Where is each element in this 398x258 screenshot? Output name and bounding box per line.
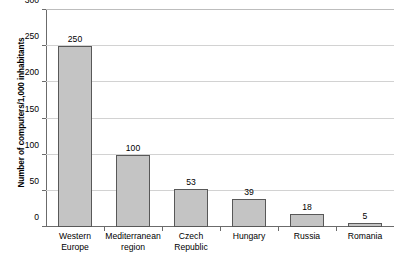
bar[interactable] bbox=[58, 46, 92, 227]
x-axis-label: Russia bbox=[278, 231, 336, 252]
y-axis-tick-label: 0 bbox=[34, 212, 39, 222]
bar-value-label: 53 bbox=[162, 177, 220, 187]
plot-area: 050100150200250300 2501005339185 bbox=[46, 10, 394, 227]
x-axis-label: Hungary bbox=[220, 231, 278, 252]
bar-slot: 18 bbox=[278, 10, 336, 227]
y-axis-tick-label: 300 bbox=[25, 0, 39, 5]
bar-slot: 250 bbox=[46, 10, 104, 227]
bar-value-label: 5 bbox=[336, 211, 394, 221]
bars-layer: 2501005339185 bbox=[46, 10, 394, 227]
bar-slot: 100 bbox=[104, 10, 162, 227]
bar-value-label: 39 bbox=[220, 187, 278, 197]
bar[interactable] bbox=[290, 214, 324, 227]
x-axis-label: WesternEurope bbox=[46, 231, 104, 252]
y-axis-tick-label: 200 bbox=[25, 67, 39, 77]
bar[interactable] bbox=[174, 189, 208, 227]
x-axis-label: Mediterraneanregion bbox=[104, 231, 162, 252]
bar-slot: 5 bbox=[336, 10, 394, 227]
y-axis-tick-label: 50 bbox=[29, 176, 39, 186]
x-axis-label: CzechRepublic bbox=[162, 231, 220, 252]
bar[interactable] bbox=[116, 155, 150, 227]
y-axis-tick-label: 150 bbox=[25, 104, 39, 114]
bar-chart: Number of computers/1,000 inhabitants 05… bbox=[0, 0, 398, 258]
bar-value-label: 18 bbox=[278, 202, 336, 212]
y-axis-tick-label: 100 bbox=[25, 140, 39, 150]
bar-value-label: 250 bbox=[46, 34, 104, 44]
bar-slot: 53 bbox=[162, 10, 220, 227]
bar-value-label: 100 bbox=[104, 143, 162, 153]
bar[interactable] bbox=[232, 199, 266, 227]
bar[interactable] bbox=[348, 223, 382, 227]
y-axis-tick-label: 250 bbox=[25, 31, 39, 41]
x-axis-labels: WesternEuropeMediterraneanregionCzechRep… bbox=[46, 231, 394, 252]
x-axis-label: Romania bbox=[336, 231, 394, 252]
bar-slot: 39 bbox=[220, 10, 278, 227]
